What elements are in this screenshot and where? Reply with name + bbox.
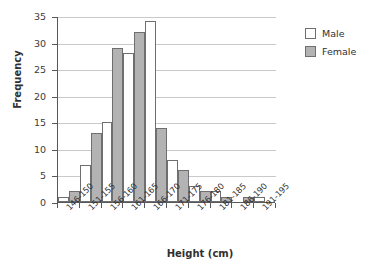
legend-item-female[interactable]: Female [305, 46, 356, 57]
y-axis-tick-label: 30 [0, 39, 46, 49]
bar-male-166-170 [145, 21, 156, 202]
bar-group [211, 16, 233, 202]
bar-group [254, 16, 276, 202]
x-axis-title: Height (cm) [110, 248, 290, 259]
bar-group [145, 16, 167, 202]
plot-area [57, 17, 275, 203]
bar-group [232, 16, 254, 202]
y-axis-tick-label: 10 [0, 145, 46, 155]
legend-swatch-icon [305, 28, 316, 39]
bar-group [123, 16, 145, 202]
bar-group [80, 16, 102, 202]
bar-female-161-165 [134, 32, 145, 202]
y-axis-tick-label: 35 [0, 12, 46, 22]
bar-female-156-160 [112, 48, 123, 202]
bar-series-container [58, 16, 276, 202]
legend-label: Female [322, 47, 356, 57]
y-axis-tick-label: 25 [0, 65, 46, 75]
bar-group [58, 16, 80, 202]
legend-item-male[interactable]: Male [305, 28, 356, 39]
y-axis-tick-label: 5 [0, 171, 46, 181]
bar-male-161-165 [123, 53, 134, 202]
histogram-chart: Frequency 05101520253035 146-150151-1551… [0, 0, 388, 268]
y-axis-tick-label: 0 [0, 198, 46, 208]
y-axis-tick-label: 20 [0, 92, 46, 102]
legend-swatch-icon [305, 46, 316, 57]
y-axis-tick-label: 15 [0, 118, 46, 128]
bar-group [102, 16, 124, 202]
legend: MaleFemale [305, 28, 356, 64]
bar-group [189, 16, 211, 202]
bar-group [167, 16, 189, 202]
legend-label: Male [322, 29, 345, 39]
